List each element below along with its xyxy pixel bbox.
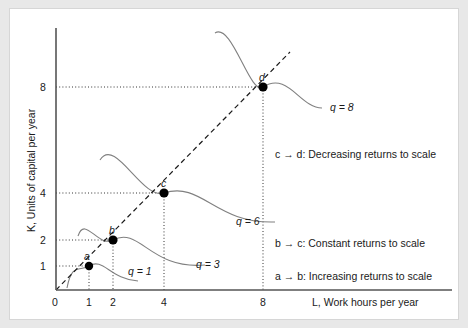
point-a (85, 262, 93, 270)
y-tick-label-4: 4 (36, 188, 50, 199)
point-b (108, 235, 117, 244)
x-tick-label-4: 4 (157, 297, 171, 308)
y-axis-title: K, Units of capital per year (26, 109, 37, 232)
point-c (159, 188, 168, 197)
annotation-constant-returns: b → c: Constant returns to scale (275, 238, 425, 249)
x-axis-title: L, Work hours per year (312, 297, 419, 308)
x-tick-label-2: 2 (106, 297, 120, 308)
isoquant-curve-q8 (215, 32, 322, 108)
isoquant-curve-q6 (100, 155, 275, 222)
point-label-d: d (259, 72, 265, 83)
isoquant-label-q6: q = 6 (236, 216, 260, 227)
scale-expansion-ray (56, 52, 290, 290)
isoquant-label-q1: q = 1 (128, 266, 152, 277)
y-tick-label-8: 8 (36, 82, 50, 93)
isoquant-curve-q3 (78, 229, 205, 266)
figure-root: K, Units of capital per year L, Work hou… (0, 0, 468, 328)
isoquant-label-q8: q = 8 (330, 102, 354, 113)
annotation-decreasing-returns: c → d: Decreasing returns to scale (275, 149, 436, 160)
point-label-a: a (84, 251, 90, 262)
x-tick-label-0: 0 (48, 297, 62, 308)
x-tick-label-8: 8 (256, 297, 270, 308)
data-points (85, 82, 268, 270)
x-tick-label-1: 1 (82, 297, 96, 308)
annotation-increasing-returns: a → b: Increasing returns to scale (275, 271, 432, 282)
point-d (258, 82, 267, 91)
y-tick-label-1: 1 (36, 261, 50, 272)
point-label-b: b (109, 225, 115, 236)
y-tick-label-2: 2 (36, 235, 50, 246)
point-label-c: c (161, 178, 166, 189)
isoquant-label-q3: q = 3 (196, 259, 220, 270)
